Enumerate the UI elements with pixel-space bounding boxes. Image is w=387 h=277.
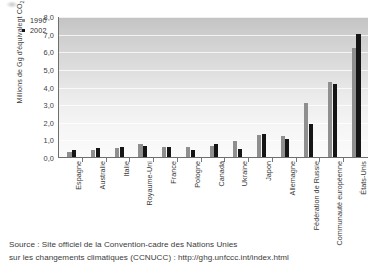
y-axis-tick-label: 2,0 xyxy=(43,118,54,127)
x-axis-label-cell: Espagne xyxy=(59,161,83,231)
x-axis-label: Pologne xyxy=(193,161,202,188)
x-axis-label: Communauté européenne xyxy=(335,161,344,246)
bar-2002 xyxy=(285,139,289,157)
source-note: Source : Site officiel de la Convention-… xyxy=(9,239,379,264)
bar-2002 xyxy=(143,146,147,157)
legend-label-2002: 2002 xyxy=(30,26,47,35)
legend-item-1990: 1990 xyxy=(22,16,47,25)
bar-1990 xyxy=(138,144,142,157)
bar-2002 xyxy=(167,147,171,157)
y-axis-tick-label: 4,0 xyxy=(43,83,54,92)
plot-area xyxy=(58,17,368,158)
x-axis-label: Japon xyxy=(264,161,273,181)
bar-2002 xyxy=(238,149,242,157)
bar-1990 xyxy=(352,48,356,157)
source-line-1: Source : Site officiel de la Convention-… xyxy=(9,239,379,252)
source-line-2: sur les changements climatiques (CCNUCC)… xyxy=(9,252,379,265)
bar-1990 xyxy=(115,148,119,157)
bar-chart-figure: Millions de Gg d'équivalent CO2 0,01,02,… xyxy=(0,0,387,232)
x-axis-label-cell: Allemagne xyxy=(273,161,297,231)
y-axis-tick-label: 5,0 xyxy=(43,65,54,74)
x-axis-label: Italie xyxy=(122,161,131,176)
x-axis-category-labels: EspagneAustralieItalieRoyaume-UniFranceP… xyxy=(59,161,368,231)
bar-2002 xyxy=(96,148,100,157)
bar-2002 xyxy=(262,134,266,157)
x-axis-label-cell: Canada xyxy=(202,161,226,231)
x-axis-label-cell: Japon xyxy=(249,161,273,231)
bar-group xyxy=(155,17,179,157)
bar-group xyxy=(202,17,226,157)
bar-group xyxy=(226,17,250,157)
bar-group xyxy=(250,17,274,157)
bar-2002 xyxy=(120,147,124,157)
x-axis-label-cell: Fédération de Russie xyxy=(297,161,321,231)
bar-series-container xyxy=(60,17,368,157)
bar-1990 xyxy=(210,146,214,157)
x-axis-label-cell: États-Unis xyxy=(344,161,368,231)
x-axis-label-cell: France xyxy=(154,161,178,231)
y-axis-tick-label: 0,0 xyxy=(43,154,54,163)
y-axis-tick-label: 3,0 xyxy=(43,101,54,110)
x-axis-label-cell: Italie xyxy=(107,161,131,231)
bar-1990 xyxy=(304,103,308,157)
legend-item-2002: 2002 xyxy=(22,26,47,35)
bar-1990 xyxy=(257,135,261,157)
y-axis-tick-label: 6,0 xyxy=(43,48,54,57)
x-axis-label: Allemagne xyxy=(288,161,297,195)
bar-2002 xyxy=(333,84,337,157)
x-axis-label: Fédération de Russie xyxy=(312,161,321,230)
bar-group xyxy=(178,17,202,157)
bar-group xyxy=(107,17,131,157)
y-axis-title-subscript: 2 xyxy=(19,0,25,3)
y-axis-tick-labels: 0,01,02,03,04,05,06,07,08,0 xyxy=(28,17,54,158)
x-axis-label: États-Unis xyxy=(359,161,368,195)
x-axis-label: France xyxy=(169,161,178,184)
bar-2002 xyxy=(72,150,76,157)
chart-legend: 1990 2002 xyxy=(22,16,47,36)
bar-2002 xyxy=(309,124,313,157)
legend-swatch-2002 xyxy=(22,29,25,32)
legend-swatch-1990 xyxy=(22,19,25,22)
bar-group xyxy=(273,17,297,157)
bar-1990 xyxy=(91,150,95,157)
bar-group xyxy=(344,17,368,157)
bar-1990 xyxy=(328,82,332,157)
x-axis-label: Espagne xyxy=(74,161,83,190)
bar-group xyxy=(131,17,155,157)
x-axis-label-cell: Pologne xyxy=(178,161,202,231)
bar-1990 xyxy=(281,136,285,158)
x-axis-label-cell: Royaume-Uni xyxy=(130,161,154,231)
bar-group xyxy=(84,17,108,157)
bar-1990 xyxy=(233,141,237,157)
bar-2002 xyxy=(356,34,360,157)
bar-group xyxy=(321,17,345,157)
x-axis-label: Australie xyxy=(98,161,107,189)
x-axis-label-cell: Communauté européenne xyxy=(320,161,344,231)
bar-2002 xyxy=(191,150,195,157)
x-axis-label: Royaume-Uni xyxy=(145,161,154,206)
bar-group xyxy=(297,17,321,157)
bar-2002 xyxy=(214,144,218,157)
x-axis-label-cell: Australie xyxy=(83,161,107,231)
bar-group xyxy=(60,17,84,157)
legend-label-1990: 1990 xyxy=(30,16,47,25)
bar-1990 xyxy=(162,147,166,157)
y-axis-tick-label: 1,0 xyxy=(43,136,54,145)
x-axis-label: Ukraine xyxy=(240,161,249,186)
x-axis-label: Canada xyxy=(217,161,226,186)
x-axis-label-cell: Ukraine xyxy=(225,161,249,231)
bar-1990 xyxy=(186,147,190,157)
